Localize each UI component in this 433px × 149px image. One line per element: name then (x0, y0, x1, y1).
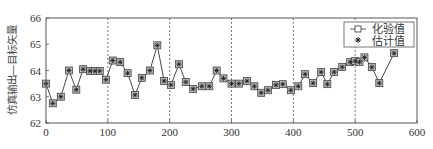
asterisk-marker (221, 76, 226, 81)
asterisk-marker (74, 87, 79, 92)
asterisk-marker (332, 70, 337, 75)
x-tick-label: 100 (100, 126, 117, 138)
asterisk-marker (125, 71, 130, 76)
asterisk-marker (236, 81, 241, 86)
asterisk-marker (369, 65, 374, 70)
asterisk-marker (191, 86, 196, 91)
legend-label-assay: 化验值 (372, 22, 405, 36)
asterisk-marker (325, 82, 330, 87)
x-tick-label: 0 (43, 126, 49, 138)
asterisk-marker (244, 79, 249, 84)
asterisk-marker (155, 43, 160, 48)
chart: 6263646566 0100200300400500600 仿真输出—目标矢量… (0, 0, 433, 149)
y-tick-label: 66 (30, 12, 42, 24)
asterisk-marker (162, 79, 167, 84)
asterisk-marker (362, 55, 367, 60)
legend: 化验值 估计值 (344, 22, 414, 48)
asterisk-marker (319, 70, 324, 75)
x-tick-label: 200 (161, 126, 178, 138)
legend-label-estimate: 估计值 (372, 35, 405, 48)
y-tick-label: 65 (30, 38, 42, 50)
asterisk-marker (229, 81, 234, 86)
asterisk-marker (139, 75, 144, 80)
asterisk-marker (168, 82, 173, 87)
asterisk-marker (353, 59, 358, 64)
asterisk-marker (311, 81, 316, 86)
y-axis-label: 仿真输出—目标矢量 (6, 24, 18, 116)
asterisk-marker (214, 68, 219, 73)
asterisk-marker (92, 69, 97, 74)
asterisk-marker (58, 94, 63, 99)
asterisk-marker (392, 51, 397, 56)
asterisk-marker (265, 88, 270, 93)
asterisk-marker (252, 84, 257, 89)
asterisk-marker (97, 69, 102, 74)
asterisk-marker (296, 84, 301, 89)
asterisk-marker (66, 68, 71, 73)
asterisk-marker (103, 77, 108, 82)
x-tick-label: 500 (347, 126, 364, 138)
y-tick-label: 62 (30, 117, 41, 129)
asterisk-marker (118, 60, 123, 65)
asterisk-marker (81, 67, 86, 72)
asterisk-marker (199, 84, 204, 89)
asterisk-marker (280, 82, 285, 87)
asterisk-marker (133, 92, 138, 97)
asterisk-marker (207, 84, 212, 89)
asterisk-marker (274, 82, 279, 87)
y-tick-label: 64 (30, 65, 42, 77)
asterisk-marker (357, 60, 362, 65)
x-tick-label: 300 (223, 126, 240, 138)
plot-area (43, 42, 398, 107)
asterisk-marker (288, 88, 293, 93)
asterisk-marker (348, 60, 353, 65)
asterisk-marker (303, 72, 308, 77)
asterisk-marker (259, 90, 264, 95)
y-tick-label: 63 (30, 91, 42, 103)
asterisk-marker (340, 65, 345, 70)
asterisk-marker (147, 68, 152, 73)
x-tick-label: 400 (285, 126, 302, 138)
asterisk-marker (50, 101, 55, 106)
asterisk-marker (110, 58, 115, 63)
asterisk-marker (87, 69, 92, 74)
asterisk-marker (183, 80, 188, 85)
x-tick-label: 600 (409, 126, 426, 138)
asterisk-marker (377, 81, 382, 86)
asterisk-marker (176, 62, 181, 67)
